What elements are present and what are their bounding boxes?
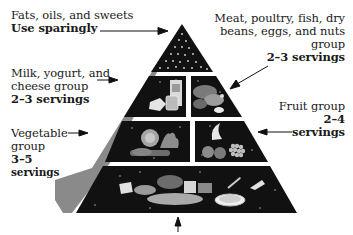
label-vegetable-group: Vegetable group 3–5 servings <box>11 127 68 179</box>
label-meat-group: Meat, poultry, fish, dry beans, eggs, an… <box>214 12 345 64</box>
arrow-meat <box>230 80 240 89</box>
label-milk-group: Milk, yogurt, and cheese group 2–3 servi… <box>11 67 110 106</box>
arrow-vegetable <box>79 130 88 136</box>
arrow-fruit <box>258 129 267 135</box>
arrow-fats <box>158 28 168 35</box>
arrow-milk <box>109 77 118 83</box>
label-fruit-group: Fruit group 2–4 servings <box>279 100 345 139</box>
arrow-grains <box>175 217 181 226</box>
label-fats-oils-sweets: Fats, oils, and sweets Use sparingly <box>11 9 133 35</box>
